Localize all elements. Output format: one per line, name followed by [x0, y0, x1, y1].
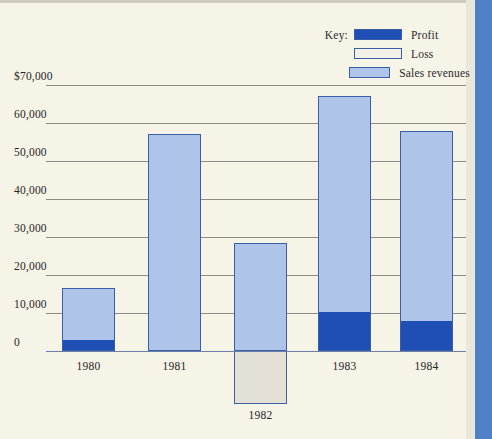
x-tick-label-1982: 1982 [234, 409, 287, 421]
y-tick-label-50000: 50,000 [14, 146, 78, 158]
bar-loss-1982 [234, 351, 287, 404]
bar-chart-plot: $70,00060,00050,00040,00030,00020,00010,… [0, 0, 466, 439]
gridline-60000 [46, 123, 466, 124]
x-axis-zero-line [46, 351, 466, 352]
y-tick-label-60000: 60,000 [14, 108, 78, 120]
bar-profit-1983 [319, 312, 370, 350]
x-tick-label-1984: 1984 [400, 360, 453, 372]
bar-revenue-1980 [62, 288, 115, 351]
x-tick-label-1983: 1983 [318, 360, 371, 372]
y-tick-label-30000: 30,000 [14, 222, 78, 234]
bar-revenue-1981 [148, 134, 201, 351]
page-edge-blue-band [475, 0, 492, 439]
x-tick-label-1981: 1981 [148, 360, 201, 372]
y-tick-label-20000: 20,000 [14, 260, 78, 272]
x-tick-label-1980: 1980 [62, 360, 115, 372]
bar-revenue-1984 [400, 131, 453, 351]
y-tick-label-40000: 40,000 [14, 184, 78, 196]
bar-revenue-1982 [234, 243, 287, 351]
chart-page: Key: Profit Loss Sales revenues $70,0006… [0, 0, 492, 439]
bar-profit-1984 [401, 321, 452, 350]
bar-revenue-1983 [318, 96, 371, 351]
bar-profit-1980 [63, 340, 114, 350]
gridline-70000 [46, 85, 466, 86]
y-tick-label-70000: $70,000 [14, 70, 78, 82]
